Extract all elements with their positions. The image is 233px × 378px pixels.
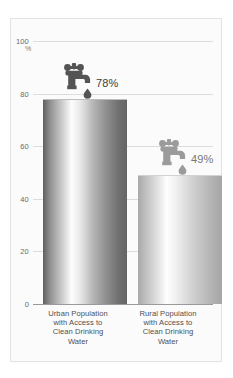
chart-figure: % 100 80 60 40 20 0 <box>0 0 233 378</box>
category-label-line: with Access to <box>33 318 123 327</box>
category-label-rural: Rural Population with Access to Clean Dr… <box>123 309 213 346</box>
marker-rural: 49% <box>156 139 213 181</box>
y-axis-unit-label: % <box>25 45 31 52</box>
bar-urban[interactable] <box>43 99 127 304</box>
category-label-line: Urban Population <box>33 309 123 318</box>
data-label-rural: 49% <box>191 153 213 165</box>
faucet-icon <box>61 63 95 105</box>
gridline-100: 100 <box>33 41 213 42</box>
y-tick-label-80: 80 <box>20 89 29 98</box>
category-label-line: Water <box>123 337 213 346</box>
y-tick-label-0: 0 <box>25 300 29 309</box>
bar-rural[interactable] <box>138 175 222 304</box>
y-tick-label-20: 20 <box>20 247 29 256</box>
chart-panel: % 100 80 60 40 20 0 <box>10 18 222 362</box>
plot-area: 100 80 60 40 20 0 <box>33 41 213 304</box>
category-label-line: Water <box>33 337 123 346</box>
category-label-urban: Urban Population with Access to Clean Dr… <box>33 309 123 346</box>
faucet-icon <box>156 139 190 181</box>
category-labels: Urban Population with Access to Clean Dr… <box>33 309 213 346</box>
gridline-80: 80 <box>33 94 213 95</box>
category-label-line: Clean Drinking <box>123 327 213 336</box>
data-label-urban: 78% <box>96 77 118 89</box>
y-tick-label-100: 100 <box>16 37 29 46</box>
category-label-line: with Access to <box>123 318 213 327</box>
axis-baseline-0: 0 <box>33 304 213 305</box>
marker-urban: 78% <box>61 63 118 105</box>
y-tick-label-60: 60 <box>20 142 29 151</box>
y-tick-label-40: 40 <box>20 194 29 203</box>
category-label-line: Rural Population <box>123 309 213 318</box>
category-label-line: Clean Drinking <box>33 327 123 336</box>
